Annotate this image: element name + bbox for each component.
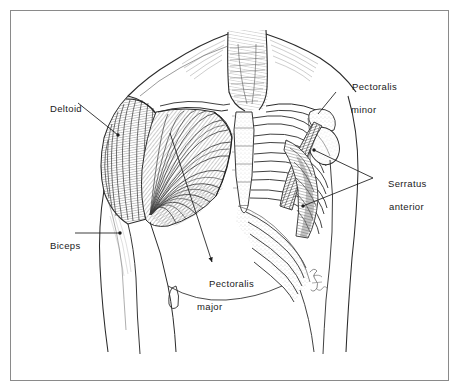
label-biceps[interactable]: Biceps <box>38 228 81 263</box>
label-serratus-anterior-line1: Serratus <box>388 178 427 189</box>
label-biceps-line1: Biceps <box>50 240 81 251</box>
label-pectoralis-major[interactable]: Pectoralis major <box>197 266 254 335</box>
leader-dot-serratus-upper <box>312 148 315 151</box>
label-pectoralis-minor-line1: Pectoralis <box>352 81 397 92</box>
label-serratus-anterior[interactable]: Serratus anterior <box>376 166 427 235</box>
label-deltoid-line1: Deltoid <box>50 103 82 114</box>
neck-structure <box>228 30 269 111</box>
anatomical-figure: Anterior chest and shoulder musculature <box>0 0 459 391</box>
trapezius-left <box>128 34 228 96</box>
label-pectoralis-major-line2: major <box>197 301 254 313</box>
pectoralis-major-muscle <box>142 109 233 226</box>
artist-signature <box>310 269 327 291</box>
leader-dot-deltoid <box>116 133 119 136</box>
label-deltoid[interactable]: Deltoid <box>38 91 82 126</box>
leader-dot-biceps <box>118 231 121 234</box>
label-pectoralis-minor[interactable]: Pectoralis minor <box>340 69 397 138</box>
leader-dot-serratus-lower <box>301 204 304 207</box>
label-pectoralis-minor-line2: minor <box>340 104 397 116</box>
label-pectoralis-major-line1: Pectoralis <box>209 278 254 289</box>
label-serratus-anterior-line2: anterior <box>376 201 427 213</box>
